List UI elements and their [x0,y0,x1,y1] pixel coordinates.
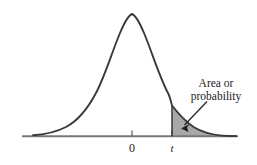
annotation-label-line1: Area or [199,77,234,89]
distribution-curve [33,14,237,136]
t-distribution-figure: 0 t Area or probability [0,0,257,165]
annotation-label-line2: probability [191,90,242,103]
distribution-plot: 0 t Area or probability [0,0,257,165]
axis-tick-label-t: t [170,142,174,154]
annotation-arrow-shaft [185,102,208,126]
axis-tick-label-zero: 0 [129,141,135,155]
